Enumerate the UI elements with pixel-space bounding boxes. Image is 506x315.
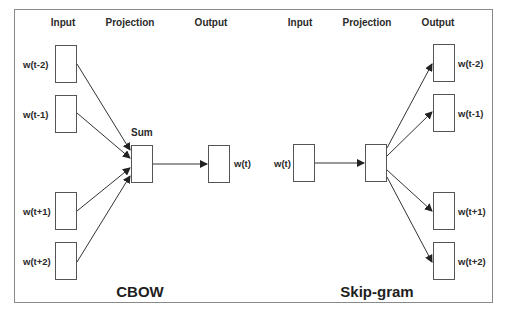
- cbow-arrow-t-2: [77, 64, 130, 150]
- skipgram-output-box-t+2: [433, 242, 455, 280]
- cbow-input-box-t-2: [55, 45, 77, 83]
- skipgram-output-box-t-1: [433, 94, 455, 132]
- cbow-output-label: w(t): [234, 158, 251, 169]
- skipgram-projection-box: [365, 144, 387, 182]
- cbow-sum-label: Sum: [131, 127, 153, 138]
- cbow-input-label: w(t-2): [23, 59, 48, 70]
- skipgram-arrow-t-1: [387, 112, 432, 156]
- skipgram-title: Skip-gram: [340, 283, 413, 300]
- cbow-header-input: Input: [51, 17, 75, 28]
- cbow-title: CBOW: [116, 283, 164, 300]
- skipgram-output-box-t-2: [433, 44, 455, 82]
- skipgram-arrow-t-2: [387, 64, 432, 148]
- skipgram-output-label: w(t+1): [458, 206, 486, 217]
- skipgram-output-label: w(t+2): [458, 256, 486, 267]
- cbow-header-projection: Projection: [106, 17, 155, 28]
- cbow-input-label: w(t+1): [23, 206, 51, 217]
- cbow-arrow-t-1: [77, 113, 130, 158]
- skipgram-arrow-t+2: [387, 177, 432, 262]
- skipgram-input-label: w(t): [274, 158, 291, 169]
- cbow-header-output: Output: [195, 17, 228, 28]
- skipgram-output-label: w(t-1): [458, 108, 483, 119]
- skipgram-header-projection: Projection: [343, 17, 392, 28]
- skipgram-output-label: w(t-2): [458, 58, 483, 69]
- skipgram-input-box: [293, 144, 315, 182]
- cbow-input-box-t+2: [55, 242, 77, 280]
- skipgram-header-input: Input: [288, 17, 312, 28]
- skipgram-output-box-t+1: [433, 192, 455, 230]
- cbow-input-box-t-1: [55, 95, 77, 133]
- cbow-output-box: [208, 145, 230, 183]
- cbow-input-label: w(t+2): [23, 256, 51, 267]
- cbow-input-box-t+1: [55, 192, 77, 230]
- cbow-input-label: w(t-1): [23, 109, 48, 120]
- cbow-projection-box: [131, 145, 153, 183]
- skipgram-header-output: Output: [422, 17, 455, 28]
